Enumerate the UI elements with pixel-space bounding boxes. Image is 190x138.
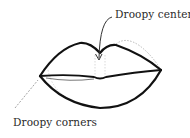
label-droopy-corners: Droopy corners [13, 116, 97, 128]
corners-leader-line [15, 80, 38, 108]
label-droopy-center: Droopy center [115, 8, 190, 20]
lower-lip-inner-line [46, 78, 94, 80]
mouth-line [40, 70, 161, 79]
